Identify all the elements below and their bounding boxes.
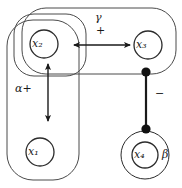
beta-label: β [162, 149, 168, 160]
gamma-label: γ [95, 12, 102, 23]
plus-label: + [96, 25, 105, 36]
diagram-canvas: x₂ x₃ x₁ x₄ γ + α+ − β [0, 0, 182, 188]
node-x1-label: x₁ [28, 146, 39, 157]
node-x3-label: x₃ [136, 39, 147, 50]
edge-x3-x4-ball-bottom [141, 124, 150, 133]
alpha-plus-label: α+ [15, 83, 32, 94]
group-outer-left [7, 20, 79, 180]
node-x2-label: x₂ [32, 38, 43, 49]
node-x4-label: x₄ [134, 149, 145, 160]
edge-x3-x4-ball-top [141, 67, 150, 76]
minus-label: − [155, 88, 164, 99]
